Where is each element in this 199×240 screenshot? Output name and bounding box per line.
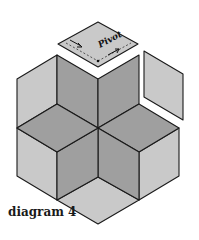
pivot-diagram: Pivot bbox=[0, 0, 199, 240]
piece-floating-right bbox=[144, 51, 183, 120]
pivot-point bbox=[97, 60, 100, 63]
diamond-pieces bbox=[17, 22, 183, 224]
diagram-caption: diagram 4 bbox=[8, 205, 76, 219]
